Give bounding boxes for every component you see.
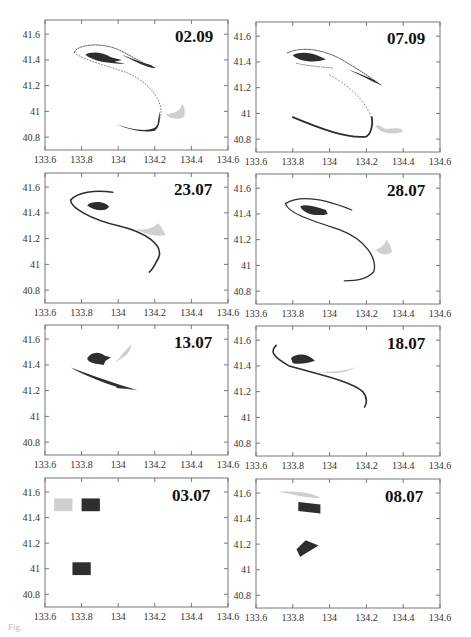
y-tick-label: 41.4 [234, 513, 252, 524]
x-tick-label: 134.2 [355, 612, 378, 623]
x-tick-label: 134 [322, 612, 337, 623]
x-tick-label: 134.6 [429, 612, 452, 623]
figure-caption-fragment: Fig. [8, 622, 22, 632]
panel-08-07: 133.6133.8134134.2134.4134.641.641.441.2… [0, 0, 471, 637]
tracer-shape-dark [297, 540, 319, 557]
plot-area: 133.6133.8134134.2134.4134.641.641.441.2… [0, 0, 471, 637]
y-tick-label: 41.2 [234, 539, 252, 550]
y-tick-label: 40.8 [234, 590, 252, 601]
y-tick-label: 41.6 [234, 488, 252, 499]
y-tick-label: 41 [241, 564, 251, 575]
tracer-shape-light [278, 491, 320, 498]
x-tick-label: 133.6 [245, 612, 268, 623]
panel-date-label: 08.07 [385, 487, 423, 507]
tracer-shape-dark [298, 502, 320, 514]
x-tick-label: 134.4 [392, 612, 415, 623]
tracer-distribution [278, 491, 320, 556]
x-tick-label: 133.8 [282, 612, 305, 623]
